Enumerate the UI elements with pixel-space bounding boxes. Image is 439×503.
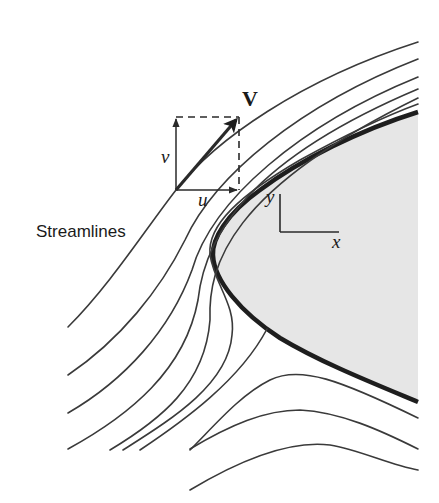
streamlines-label: Streamlines — [36, 222, 126, 241]
v-component-label: v — [161, 146, 170, 167]
streamline-8 — [190, 444, 418, 490]
x-axis-label: x — [331, 231, 341, 252]
velocity-label: V — [242, 86, 258, 111]
y-axis-label: y — [264, 186, 275, 207]
diagram-canvas: V v u y x Streamlines — [0, 0, 439, 503]
u-component-label: u — [198, 189, 208, 210]
streamline-diagram: V v u y x Streamlines — [0, 0, 439, 503]
